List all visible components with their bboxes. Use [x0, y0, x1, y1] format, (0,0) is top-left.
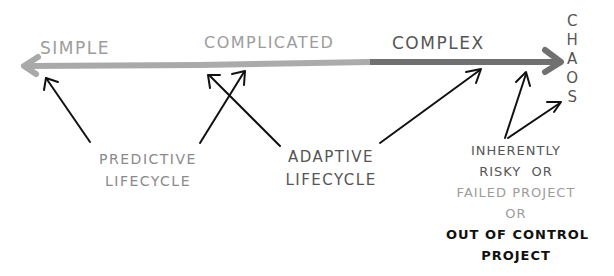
chaos-letter: C — [566, 12, 580, 31]
chaos-note-line4: OR — [446, 203, 586, 224]
chaos-note-line2: RISKY OR — [446, 161, 586, 182]
chaos-letter: H — [566, 31, 580, 50]
zone-label-complex: COMPLEX — [392, 33, 485, 53]
chaos-letter: O — [566, 69, 580, 88]
predictive-line1: PREDICTIVE — [88, 148, 208, 170]
chaos-note-line1: INHERENTLY — [446, 140, 586, 161]
adaptive-line2: LIFECYCLE — [276, 169, 386, 192]
chaos-note-line5: OUT OF CONTROL — [446, 224, 586, 245]
chaos-letter: S — [566, 88, 580, 107]
chaos-note-line6: PROJECT — [446, 245, 586, 266]
chaos-note-line3: FAILED PROJECT — [446, 182, 586, 203]
adaptive-lifecycle-label: ADAPTIVE LIFECYCLE — [276, 146, 386, 192]
predictive-line2: LIFECYCLE — [88, 170, 208, 192]
adaptive-line1: ADAPTIVE — [276, 146, 386, 169]
pointer-arrows — [44, 69, 561, 146]
chaos-letter: A — [566, 50, 580, 69]
predictive-lifecycle-label: PREDICTIVE LIFECYCLE — [88, 148, 208, 192]
zone-label-simple: SIMPLE — [40, 38, 110, 58]
zone-label-complicated: COMPLICATED — [204, 33, 334, 52]
chaos-note: INHERENTLY RISKY OR FAILED PROJECT OR OU… — [446, 140, 586, 266]
chaos-label: C H A O S — [566, 12, 580, 107]
